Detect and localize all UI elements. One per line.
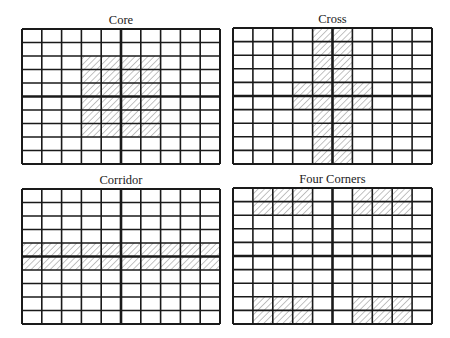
hatched-cell xyxy=(352,188,372,202)
hatched-cell xyxy=(141,124,161,138)
panel-title: Cross xyxy=(233,12,432,26)
hatched-cell xyxy=(42,257,62,271)
hatched-cell xyxy=(273,202,293,216)
hatched-cell xyxy=(141,56,161,70)
hatched-cell xyxy=(200,257,220,271)
hatched-cell xyxy=(161,257,181,271)
hatched-cell xyxy=(81,257,101,271)
hatched-cell xyxy=(352,82,372,96)
hatched-cell xyxy=(101,56,121,70)
panel-title: Core xyxy=(22,13,220,27)
hatched-cell xyxy=(121,110,141,124)
hatched-cell xyxy=(180,257,200,271)
hatched-cell xyxy=(333,55,353,69)
hatched-cell xyxy=(121,56,141,70)
hatched-cell xyxy=(392,202,412,216)
hatched-cell xyxy=(313,42,333,56)
panel-four-corners: Four Corners xyxy=(233,172,432,324)
hatched-cell xyxy=(372,188,392,202)
hatched-cell xyxy=(141,70,161,84)
hatched-cell xyxy=(101,257,121,271)
hatched-cell xyxy=(352,310,372,324)
hatched-cell xyxy=(293,297,313,311)
hatched-cell xyxy=(392,188,412,202)
hatched-cell xyxy=(180,243,200,257)
hatched-cell xyxy=(293,202,313,216)
panel-corridor: Corridor xyxy=(22,173,220,324)
hatched-cell xyxy=(81,83,101,97)
hatched-cell xyxy=(81,70,101,84)
hatched-cell xyxy=(273,310,293,324)
hatched-cell xyxy=(293,188,313,202)
hatched-cell xyxy=(313,110,333,124)
hatched-cell xyxy=(313,123,333,137)
hatched-cell xyxy=(121,124,141,138)
hatched-cell xyxy=(101,97,121,111)
panel-core: Core xyxy=(22,13,220,164)
hatched-cell xyxy=(333,96,353,110)
hatched-cell xyxy=(141,243,161,257)
hatched-cell xyxy=(101,110,121,124)
hatched-cell xyxy=(333,123,353,137)
hatched-cell xyxy=(141,97,161,111)
hatched-cell xyxy=(333,42,353,56)
hatched-cell xyxy=(121,70,141,84)
hatched-cell xyxy=(101,124,121,138)
hatched-cell xyxy=(42,243,62,257)
hatched-cell xyxy=(62,257,82,271)
hatched-cell xyxy=(121,257,141,271)
hatched-cell xyxy=(372,202,392,216)
hatched-cell xyxy=(313,150,333,164)
hatched-cell xyxy=(313,55,333,69)
hatched-cell xyxy=(392,297,412,311)
hatched-cell xyxy=(81,243,101,257)
hatched-cell xyxy=(313,137,333,151)
hatched-cell xyxy=(253,202,273,216)
hatched-cell xyxy=(101,70,121,84)
hatched-cell xyxy=(333,137,353,151)
hatched-cell xyxy=(101,243,121,257)
panel-cross: Cross xyxy=(233,12,432,164)
hatched-cell xyxy=(81,110,101,124)
panel-title: Four Corners xyxy=(233,172,432,186)
hatched-cell xyxy=(313,82,333,96)
hatched-cell xyxy=(62,243,82,257)
hatched-cell xyxy=(200,243,220,257)
hatched-cell xyxy=(101,83,121,97)
grid-four-corners xyxy=(233,188,432,324)
hatched-cell xyxy=(313,69,333,83)
grid-cross xyxy=(233,28,432,164)
hatched-cell xyxy=(372,297,392,311)
hatched-cell xyxy=(333,69,353,83)
hatched-cell xyxy=(81,56,101,70)
hatched-cell xyxy=(273,297,293,311)
hatched-cell xyxy=(293,82,313,96)
hatched-cell xyxy=(22,257,42,271)
hatched-cell xyxy=(333,110,353,124)
hatched-cell xyxy=(141,110,161,124)
hatched-cell xyxy=(253,310,273,324)
hatched-cell xyxy=(352,297,372,311)
hatched-cell xyxy=(352,96,372,110)
hatched-cell xyxy=(293,310,313,324)
hatched-cell xyxy=(293,96,313,110)
hatched-cell xyxy=(313,28,333,42)
hatched-cell xyxy=(253,297,273,311)
hatched-cell xyxy=(372,310,392,324)
hatched-cell xyxy=(333,28,353,42)
grid-core xyxy=(22,29,220,164)
hatched-cell xyxy=(273,188,293,202)
grid-corridor xyxy=(22,189,220,324)
hatched-cell xyxy=(333,82,353,96)
hatched-cell xyxy=(253,188,273,202)
hatched-cell xyxy=(352,202,372,216)
hatched-cell xyxy=(313,96,333,110)
hatched-cell xyxy=(392,310,412,324)
hatched-cell xyxy=(121,83,141,97)
hatched-cell xyxy=(141,257,161,271)
hatched-cell xyxy=(81,124,101,138)
hatched-cell xyxy=(121,97,141,111)
panel-title: Corridor xyxy=(22,173,220,187)
hatched-cell xyxy=(141,83,161,97)
hatched-cell xyxy=(22,243,42,257)
